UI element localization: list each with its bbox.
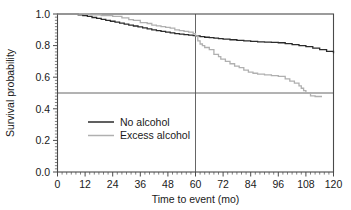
y-axis-tick-label-0.0: 0.0 (35, 166, 50, 178)
x-axis-tick-label-48: 48 (162, 178, 174, 190)
x-axis-tick-label-72: 72 (217, 178, 229, 190)
x-axis-tick-label-0: 0 (55, 178, 61, 190)
y-axis-tick-label-0.4: 0.4 (35, 103, 50, 115)
x-axis-tick-label-108: 108 (297, 178, 315, 190)
y-axis-tick-label-0.2: 0.2 (35, 134, 50, 146)
x-axis-tick-label-36: 36 (134, 178, 146, 190)
x-axis-tick-label-24: 24 (107, 178, 119, 190)
x-axis-tick-label-60: 60 (190, 178, 202, 190)
x-axis-tick-label-96: 96 (272, 178, 284, 190)
y-axis-title: Survival probability (4, 48, 16, 137)
x-axis-tick-label-84: 84 (245, 178, 257, 190)
survival-curve-figure: 012243648607284961081200.00.20.40.60.81.… (0, 0, 351, 210)
x-axis-tick-label-120: 120 (325, 178, 343, 190)
legend-label-no-alcohol: No alcohol (120, 116, 170, 128)
y-axis-tick-label-0.6: 0.6 (35, 71, 50, 83)
x-axis-title: Time to event (mo) (152, 193, 240, 205)
y-axis-tick-label-1.0: 1.0 (35, 8, 50, 20)
kaplan-meier-chart: 012243648607284961081200.00.20.40.60.81.… (0, 0, 351, 210)
legend-label-excess-alcohol: Excess alcohol (120, 129, 190, 141)
x-axis-tick-label-12: 12 (79, 178, 91, 190)
y-axis-tick-label-0.8: 0.8 (35, 39, 50, 51)
